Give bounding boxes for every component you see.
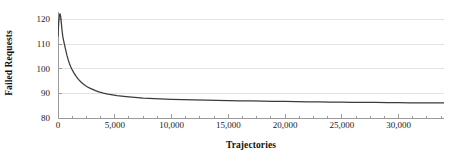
plot-svg [58, 12, 444, 118]
x-axis-tick-labels: 05,00010,00015,00020,00025,00030,000 [58, 121, 444, 137]
y-tick-label: 80 [41, 114, 50, 123]
x-tick-label: 20,000 [273, 121, 298, 130]
y-tick-label: 120 [37, 15, 51, 24]
y-tick-label: 90 [41, 89, 50, 98]
x-tick-label: 30,000 [386, 121, 411, 130]
x-tick-label: 0 [56, 121, 61, 130]
x-axis-tick-marks [58, 114, 441, 118]
y-axis-title-label: Failed Requests [4, 30, 14, 96]
y-tick-label: 110 [37, 40, 50, 49]
x-axis-title: Trajectories [58, 140, 444, 150]
y-axis-tick-labels: 8090100110120 [18, 0, 54, 125]
plot-area [58, 12, 444, 118]
x-tick-label: 25,000 [329, 121, 354, 130]
x-tick-label: 15,000 [216, 121, 241, 130]
gridlines [58, 19, 444, 118]
x-tick-label: 10,000 [159, 121, 184, 130]
y-axis-title: Failed Requests [0, 0, 18, 125]
failed-requests-series-line [58, 14, 444, 103]
y-tick-label: 100 [37, 64, 51, 73]
x-axis-line [58, 118, 444, 119]
x-tick-label: 5,000 [105, 121, 125, 130]
failed-requests-line-chart: Failed Requests 8090100110120 05,00010,0… [0, 0, 450, 165]
